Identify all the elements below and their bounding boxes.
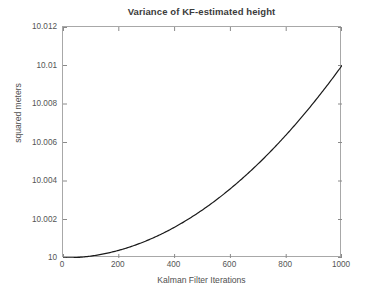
plot-canvas (63, 27, 342, 258)
x-tick-label: 200 (111, 260, 125, 269)
y-tick-label: 10.012 (0, 22, 57, 31)
y-tick-label: 10 (0, 253, 57, 262)
y-tick-label: 10.008 (0, 99, 57, 108)
x-tick-label: 400 (167, 260, 181, 269)
y-tick-label: 10.004 (0, 176, 57, 185)
y-tick-label: 10.006 (0, 138, 57, 147)
x-tick-label: 1000 (332, 260, 350, 269)
y-tick-label: 10.002 (0, 215, 57, 224)
plot-area (62, 26, 341, 257)
x-axis-label: Kalman Filter Iterations (62, 275, 341, 285)
x-tick-label: 800 (278, 260, 292, 269)
tick-marks (63, 27, 342, 258)
chart-figure: Variance of KF-estimated height squared … (0, 0, 366, 296)
x-tick-label: 0 (60, 260, 65, 269)
y-axis-label: squared meters (13, 53, 23, 173)
x-tick-label: 600 (223, 260, 237, 269)
y-tick-label: 10.01 (0, 61, 57, 70)
data-series-line (63, 66, 342, 259)
chart-title: Variance of KF-estimated height (62, 6, 341, 17)
